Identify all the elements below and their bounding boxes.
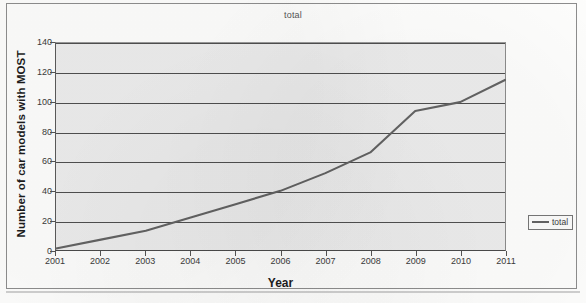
x-tick-mark (190, 251, 191, 256)
x-tick-label: 2009 (393, 256, 439, 266)
chart-screenshot: total Number of car models with MOST Yea… (0, 0, 586, 303)
x-tick-mark (55, 251, 56, 256)
plot-area (55, 42, 506, 251)
y-tick-label: 80 (24, 127, 52, 137)
page-edge-shadow (6, 291, 580, 293)
legend-item-label: total (552, 218, 568, 227)
x-axis-title: Year (55, 276, 506, 290)
y-tick-label: 20 (24, 216, 52, 226)
chart-legend: total (528, 215, 573, 230)
x-tick-label: 2006 (258, 256, 304, 266)
y-tick-label: 0 (24, 246, 52, 256)
x-tick-mark (281, 251, 282, 256)
x-tick-mark (326, 251, 327, 256)
series-layer (56, 43, 505, 250)
y-tick-label: 140 (24, 37, 52, 47)
y-tick-label: 40 (24, 186, 52, 196)
x-tick-label: 2008 (348, 256, 394, 266)
x-tick-mark (416, 251, 417, 256)
x-tick-mark (371, 251, 372, 256)
x-tick-label: 2010 (438, 256, 484, 266)
x-tick-label: 2011 (483, 256, 529, 266)
x-tick-label: 2007 (303, 256, 349, 266)
y-tick-label: 60 (24, 156, 52, 166)
chart-title: total (0, 10, 586, 20)
legend-line-swatch (532, 221, 549, 223)
y-tick-label: 100 (24, 97, 52, 107)
x-tick-label: 2002 (77, 256, 123, 266)
y-tick-label: 120 (24, 67, 52, 77)
x-tick-label: 2005 (212, 256, 258, 266)
x-tick-mark (506, 251, 507, 256)
line-series-total (56, 80, 505, 249)
x-tick-mark (461, 251, 462, 256)
x-tick-label: 2004 (167, 256, 213, 266)
x-tick-label: 2001 (32, 256, 78, 266)
x-tick-mark (235, 251, 236, 256)
x-tick-mark (100, 251, 101, 256)
x-tick-mark (145, 251, 146, 256)
x-tick-label: 2003 (122, 256, 168, 266)
